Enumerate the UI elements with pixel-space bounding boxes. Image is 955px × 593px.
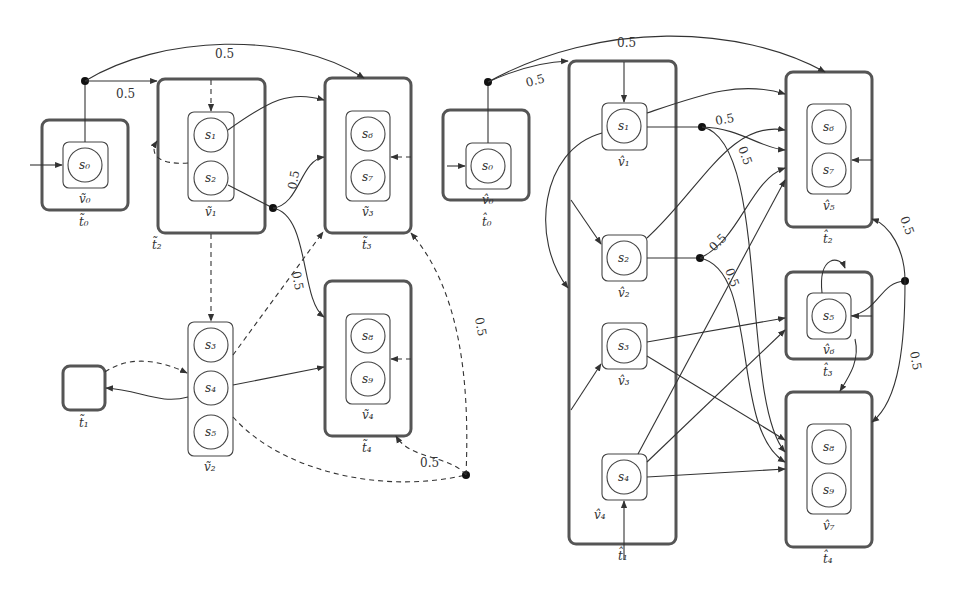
vertex-label: v̂₄ <box>594 508 606 522</box>
prob-label: 0.5 <box>472 316 489 337</box>
prob-label: 0.5 <box>420 456 439 470</box>
vertex-label: ṽ₃ <box>362 205 374 219</box>
prob-label: 0.5 <box>116 87 135 101</box>
state-label: s₄ <box>205 381 216 395</box>
state-label: s₄ <box>618 470 629 484</box>
prob-label: 0.5 <box>215 47 234 61</box>
state-label: s₁ <box>618 119 629 133</box>
state-label: s₇ <box>362 170 373 184</box>
state-label: s₉ <box>362 372 373 386</box>
tile-label: t̂₂ <box>823 229 833 246</box>
tile-label: t̂₁ <box>618 546 628 563</box>
vertex-label: v̂₆ <box>823 343 835 357</box>
state-label: s₃ <box>205 338 216 352</box>
state-label: s₃ <box>618 339 629 353</box>
state-label: s₅ <box>823 309 834 323</box>
tile-t1-left <box>63 366 105 410</box>
prob-label: 0.5 <box>524 71 546 89</box>
vertex-label: v̂₃ <box>618 374 630 388</box>
vertex-label: ṽ₂ <box>204 460 216 474</box>
state-label: s₀ <box>79 158 90 172</box>
prob-label: 0.5 <box>289 270 306 291</box>
state-label: s₅ <box>205 425 216 439</box>
left-graph: 0.5 0.5 0.5 0.5 0.5 0.5 s₀ s₁ s₂ s₃ s₄ s… <box>30 44 489 482</box>
prob-label: 0.5 <box>897 214 917 237</box>
tile-label: t̃₀ <box>79 213 89 229</box>
state-label: s₈ <box>362 329 373 343</box>
vertex-label: ṽ₁ <box>205 205 217 219</box>
tile-label: t̃₂ <box>152 236 162 252</box>
prob-label: 0.5 <box>907 350 924 371</box>
state-label: s₇ <box>823 163 834 177</box>
state-label: s₈ <box>823 440 834 454</box>
tile-label: t̃₃ <box>362 236 372 252</box>
prob-label: 0.5 <box>617 36 636 50</box>
diagram-canvas: 0.5 0.5 0.5 0.5 0.5 0.5 s₀ s₁ s₂ s₃ s₄ s… <box>0 0 955 593</box>
prob-label: 0.5 <box>285 169 302 190</box>
vertex-label: v̂₂ <box>618 286 630 300</box>
game-graph-diagram: 0.5 0.5 0.5 0.5 0.5 0.5 s₀ s₁ s₂ s₃ s₄ s… <box>0 0 955 593</box>
tile-label: t̂₃ <box>823 362 833 379</box>
vertex-label: v̂₁ <box>618 155 630 169</box>
vertex-label: ṽ₀ <box>79 192 91 206</box>
tile-label: t̃₄ <box>362 439 372 455</box>
state-label: s₉ <box>823 483 834 497</box>
state-label: s₂ <box>618 251 629 265</box>
state-label: s₁ <box>205 128 216 142</box>
prob-label: 0.5 <box>714 111 735 128</box>
state-label: s₀ <box>482 159 493 173</box>
tile-label: t̃₁ <box>79 414 89 430</box>
prob-label: 0.5 <box>722 266 742 289</box>
vertex-label: v̂₀ <box>482 193 494 207</box>
vertex-label: ṽ₄ <box>362 408 374 422</box>
tile-label: t̂₄ <box>823 549 833 566</box>
right-graph: 0.5 0.5 0.5 0.5 0.5 0.5 0.5 0.5 s₀ s₁ s₂… <box>443 36 924 566</box>
state-label: s₆ <box>823 120 834 134</box>
prob-label: 0.5 <box>706 231 729 254</box>
tile-label: t̂₀ <box>482 212 492 229</box>
state-label: s₆ <box>362 127 373 141</box>
vertex-label: v̂₅ <box>823 199 835 213</box>
prob-label: 0.5 <box>735 144 755 167</box>
state-label: s₂ <box>205 171 216 185</box>
vertex-label: v̂₇ <box>823 519 835 533</box>
